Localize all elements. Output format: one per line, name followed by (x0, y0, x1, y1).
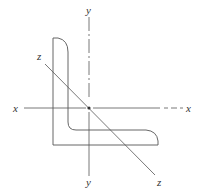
z-axis (45, 64, 155, 175)
z-axis-label-top: z (36, 50, 42, 62)
x-axis-label-left: x (12, 102, 18, 114)
z-axis-label-bottom: z (156, 176, 162, 188)
y-axis-label-top: y (85, 4, 91, 16)
angle-section-diagram: y y x x z z (0, 0, 198, 196)
x-axis-label-right: x (185, 102, 191, 114)
angle-section-outline (53, 38, 158, 145)
centroid-dot (87, 106, 90, 109)
y-axis-label-bottom: y (85, 176, 91, 188)
